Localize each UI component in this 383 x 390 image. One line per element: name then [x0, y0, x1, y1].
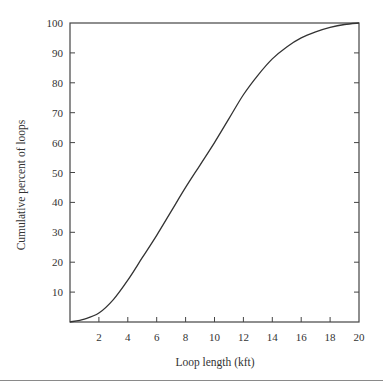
x-tick-label: 6 [154, 331, 160, 343]
y-tick-label: 70 [52, 107, 64, 119]
y-tick-label: 20 [52, 256, 64, 268]
y-tick-label: 90 [52, 47, 64, 59]
caption-cutoff [10, 385, 370, 390]
x-tick-label: 12 [238, 331, 249, 343]
plot-frame [70, 23, 359, 322]
x-tick-label: 18 [325, 331, 337, 343]
x-tick-label: 10 [209, 331, 221, 343]
x-tick-label: 20 [354, 331, 366, 343]
y-tick-label: 10 [52, 286, 64, 298]
x-tick-label: 4 [125, 331, 131, 343]
x-tick-label: 2 [96, 331, 102, 343]
y-axis-ticks: 102030405060708090100 [47, 17, 360, 298]
y-tick-label: 30 [52, 226, 64, 238]
x-axis-label: Loop length (kft) [175, 356, 254, 369]
y-tick-label: 80 [52, 77, 64, 89]
x-axis-ticks: 2468101214161820 [96, 317, 365, 343]
x-tick-label: 16 [296, 331, 308, 343]
x-tick-label: 8 [183, 331, 189, 343]
y-tick-label: 100 [47, 17, 64, 29]
cumulative-curve [70, 23, 359, 322]
x-tick-label: 14 [267, 331, 279, 343]
y-tick-label: 60 [52, 137, 64, 149]
caption-divider [0, 380, 383, 381]
chart: 102030405060708090100 2468101214161820 L… [0, 0, 383, 390]
y-tick-label: 40 [52, 196, 64, 208]
y-axis-label: Cumulative percent of loops [15, 119, 28, 250]
y-tick-label: 50 [52, 167, 64, 179]
